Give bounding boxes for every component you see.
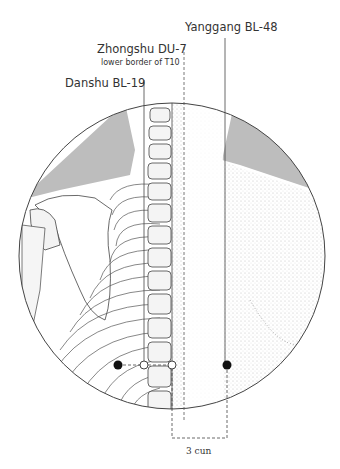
label-danshu: Danshu BL-19 <box>65 76 145 90</box>
anatomy-diagram <box>0 0 340 469</box>
label-zhongshu-note: lower border of T10 <box>101 58 180 67</box>
point-danshu-bl19[interactable] <box>114 361 123 370</box>
point-zhongshu-du7[interactable] <box>168 361 176 369</box>
point-inner-bl[interactable] <box>140 361 148 369</box>
label-yanggang: Yanggang BL-48 <box>185 20 278 34</box>
label-measure: 3 cun <box>186 446 211 456</box>
back-illustration <box>0 90 340 420</box>
label-zhongshu: Zhongshu DU-7 <box>97 42 187 56</box>
point-yanggang-bl48[interactable] <box>223 361 232 370</box>
